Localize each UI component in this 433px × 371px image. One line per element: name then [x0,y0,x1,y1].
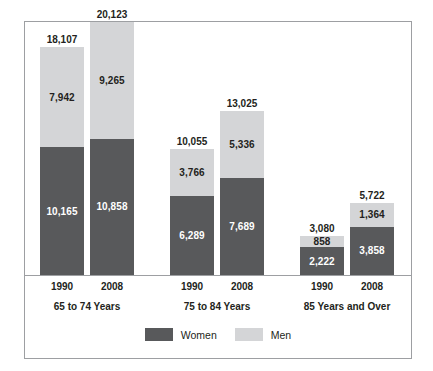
bar-total-label: 10,055 [177,136,208,147]
bar-segment-women-label: 10,858 [96,201,127,212]
bar-segment-men-label: 1,364 [359,209,385,220]
legend-label-women: Women [181,329,217,341]
chart-legend: Women Men [25,328,411,341]
bar-2008-75-84[interactable]: 13,025 5,336 7,689 [220,111,264,275]
bar-segment-women-label: 7,689 [229,221,255,232]
bar-group-65-to-74: 18,107 7,942 10,165 20,123 9,265 10,858 [33,22,163,275]
legend-item-men[interactable]: Men [235,328,291,341]
bar-segment-women[interactable]: 6,289 [170,196,214,275]
bar-1990-85-over[interactable]: 3,080 858 2,222 [300,236,344,275]
x-axis-baseline [25,275,411,276]
bar-segment-women-label: 2,222 [309,256,335,267]
bar-segment-women[interactable]: 10,858 [90,139,134,276]
xtick-75-84-1990: 1990 [181,281,203,292]
legend-swatch-men-icon [235,328,263,341]
bar-segment-women-label: 10,165 [46,206,77,217]
bar-segment-men-label: 9,265 [99,75,125,86]
x-axis-tick-labels: 1990 2008 1990 2008 1990 2008 [25,281,411,297]
bar-group-85-and-over: 3,080 858 2,222 5,722 1,364 3,858 [293,22,423,275]
bar-segment-men[interactable]: 3,766 [170,149,214,196]
bar-segment-men-label: 858 [314,236,331,247]
bar-1990-65-74[interactable]: 18,107 7,942 10,165 [40,47,84,275]
bar-segment-women-label: 3,858 [359,245,385,256]
bar-segment-men[interactable]: 1,364 [350,203,394,226]
bar-segment-women[interactable]: 10,165 [40,147,84,275]
bar-1990-75-84[interactable]: 10,055 3,766 6,289 [170,149,214,275]
xtick-65-74-2008: 2008 [101,281,123,292]
bar-total-label: 20,123 [97,9,128,20]
bar-segment-men-label: 7,942 [49,92,75,103]
bar-group-75-to-84: 10,055 3,766 6,289 13,025 5,336 7,689 [163,22,293,275]
bar-segment-women[interactable]: 3,858 [350,227,394,276]
group-label-65-to-74: 65 to 74 Years [54,301,121,312]
legend-label-men: Men [271,329,291,341]
bar-total-label: 13,025 [227,98,258,109]
legend-swatch-women-icon [145,328,173,341]
bar-segment-women[interactable]: 7,689 [220,178,264,275]
bar-segment-men-label: 3,766 [179,167,205,178]
bar-segment-men[interactable]: 5,336 [220,111,264,178]
bar-total-label: 3,080 [309,223,334,234]
legend-item-women[interactable]: Women [145,328,217,341]
chart-frame: 18,107 7,942 10,165 20,123 9,265 10,858 [24,21,412,359]
bar-segment-men[interactable]: 9,265 [90,22,134,139]
xtick-75-84-2008: 2008 [231,281,253,292]
plot-area: 18,107 7,942 10,165 20,123 9,265 10,858 [25,22,411,275]
xtick-65-74-1990: 1990 [51,281,73,292]
bar-2008-65-74[interactable]: 20,123 9,265 10,858 [90,22,134,275]
bar-segment-men[interactable]: 858 [300,236,344,247]
group-label-75-to-84: 75 to 84 Years [184,301,251,312]
bar-segment-men[interactable]: 7,942 [40,47,84,147]
bar-total-label: 5,722 [359,190,384,201]
group-label-85-and-over: 85 Years and Over [304,301,391,312]
xtick-85-over-1990: 1990 [311,281,333,292]
bar-segment-men-label: 5,336 [229,139,255,150]
xtick-85-over-2008: 2008 [361,281,383,292]
bar-segment-women[interactable]: 2,222 [300,247,344,275]
bar-segment-women-label: 6,289 [179,230,205,241]
bar-2008-85-over[interactable]: 5,722 1,364 3,858 [350,203,394,275]
bar-total-label: 18,107 [47,34,78,45]
